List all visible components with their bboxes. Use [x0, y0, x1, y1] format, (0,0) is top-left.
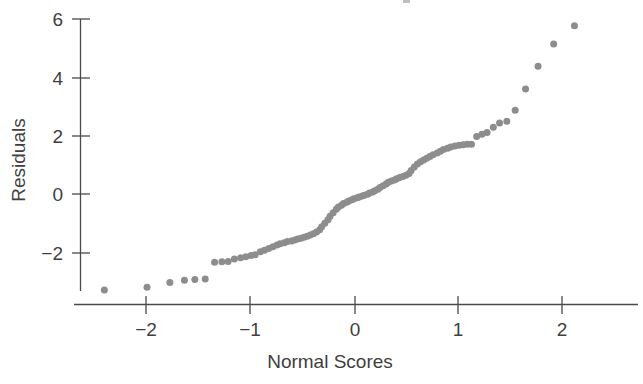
y-tick-label-4: 4 — [52, 68, 63, 89]
data-point — [468, 141, 475, 148]
data-point — [496, 120, 503, 127]
data-point — [571, 22, 578, 29]
x-tick-label-1: 1 — [453, 319, 464, 340]
data-point — [503, 118, 510, 125]
x-tick-label-neg1: −1 — [239, 319, 261, 340]
y-tick-label-0: 0 — [52, 184, 63, 205]
data-point — [166, 279, 173, 286]
data-point — [535, 63, 542, 70]
data-point — [211, 259, 218, 266]
data-point — [484, 129, 491, 136]
data-point — [231, 256, 238, 263]
y-axis-title: Residuals — [8, 118, 29, 201]
data-point — [101, 287, 108, 294]
data-point — [225, 258, 232, 265]
x-tick-label-2: 2 — [557, 319, 568, 340]
data-points-layer — [101, 22, 578, 293]
data-point — [522, 86, 529, 93]
x-tick-label-neg2: −2 — [135, 319, 157, 340]
x-axis-title: Normal Scores — [267, 351, 393, 372]
data-point — [181, 277, 188, 284]
data-point — [490, 124, 497, 131]
y-tick-label-neg2: −2 — [41, 243, 63, 264]
data-point — [191, 276, 198, 283]
y-tick-label-6: 6 — [52, 9, 63, 30]
normal-probability-plot-figure: 6 4 2 0 −2 −2 −1 0 1 2 Residuals Normal … — [0, 0, 643, 384]
data-point — [218, 258, 225, 265]
scatter-plot-canvas: 6 4 2 0 −2 −2 −1 0 1 2 Residuals Normal … — [0, 0, 643, 384]
data-point — [202, 275, 209, 282]
x-tick-label-0: 0 — [350, 319, 361, 340]
data-point — [144, 284, 151, 291]
y-tick-label-2: 2 — [52, 126, 63, 147]
data-point — [512, 107, 519, 114]
data-point — [550, 40, 557, 47]
